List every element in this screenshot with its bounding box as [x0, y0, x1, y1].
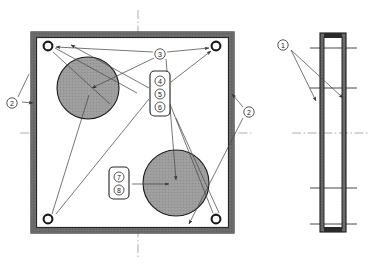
balloon-6-label: 6	[158, 104, 162, 111]
balloon-3[interactable]: 3	[155, 49, 165, 59]
balloon-8-label: 8	[117, 187, 121, 194]
drawing-canvas: 3 4 5 6 7 8 2 2 1	[0, 0, 369, 265]
balloon-2-left[interactable]: 2	[7, 98, 17, 108]
balloon-box-78[interactable]: 7 8	[109, 167, 129, 199]
front-view-frame	[31, 32, 234, 233]
lower-disc	[143, 150, 209, 216]
technical-drawing-svg: 3 4 5 6 7 8 2 2 1	[0, 0, 369, 265]
balloon-2-right-label: 2	[247, 109, 251, 116]
balloon-7-label: 7	[117, 174, 121, 181]
balloon-2-left-label: 2	[10, 100, 14, 107]
balloon-4-label: 4	[158, 78, 162, 85]
side-profile-bottom-cap	[324, 227, 342, 232]
hole-bottom-left	[44, 215, 53, 224]
balloon-5-label: 5	[158, 91, 162, 98]
balloon-2-right[interactable]: 2	[244, 107, 254, 117]
balloon-1[interactable]: 1	[278, 40, 288, 50]
balloon-box-456[interactable]: 4 5 6	[150, 71, 170, 116]
hole-top-right	[212, 42, 221, 51]
balloon-1-label: 1	[281, 42, 285, 49]
hole-bottom-right	[212, 215, 221, 224]
side-profile-top-cap	[324, 33, 342, 38]
balloon-3-label: 3	[158, 51, 162, 58]
frame-outer-edge	[31, 32, 234, 233]
hole-top-left	[44, 42, 53, 51]
